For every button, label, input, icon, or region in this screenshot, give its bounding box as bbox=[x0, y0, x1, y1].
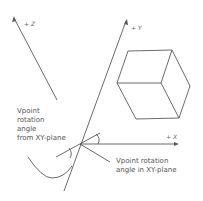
z-arrow-icon bbox=[12, 16, 16, 22]
in-xy-label: Vpoint rotation angle in XY-plane bbox=[116, 157, 176, 175]
z-axis-label: + Z bbox=[24, 20, 35, 27]
leader-curve-from-xy bbox=[28, 157, 72, 178]
x-arrow-icon bbox=[174, 142, 179, 146]
cube-icon bbox=[117, 50, 190, 119]
z-axis-line bbox=[14, 18, 57, 100]
from-xy-label: Vpoint rotation angle from XY-plane bbox=[17, 107, 66, 143]
y-arrow-icon bbox=[124, 19, 128, 25]
angle-arc-xy bbox=[96, 134, 99, 144]
x-axis-label: + X bbox=[166, 133, 177, 140]
y-axis-label: + Y bbox=[131, 24, 142, 31]
leader-line-in-xy bbox=[80, 144, 110, 162]
